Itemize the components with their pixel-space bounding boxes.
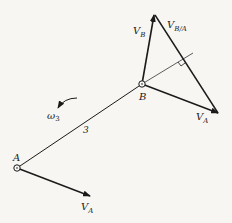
point-b-label: B	[138, 91, 146, 102]
va-label-at-b: VA	[196, 111, 208, 125]
velocity-polygon-diagram: A B 3 ω3 VA VA VB VB/A	[0, 0, 232, 223]
point-a-label: A	[12, 152, 20, 163]
link-extension-line	[142, 53, 193, 84]
right-angle-mark	[178, 62, 185, 66]
omega-label: ω3	[47, 110, 60, 123]
vb-vector	[142, 15, 154, 84]
link-label: 3	[83, 125, 89, 135]
va-vector-at-b	[142, 84, 218, 113]
vb-label: VB	[133, 25, 145, 39]
va-label-at-a: VA	[81, 201, 93, 215]
pin-b-icon	[139, 81, 145, 87]
vba-label: VB/A	[167, 19, 187, 33]
pin-a-icon	[14, 165, 20, 171]
link-3	[17, 84, 142, 168]
va-vector-at-a	[17, 168, 90, 196]
rotation-arrow-icon	[58, 98, 77, 108]
